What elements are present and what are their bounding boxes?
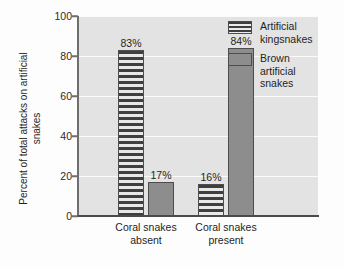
legend-label: Brown artificial snakes	[260, 52, 296, 90]
y-axis-line	[77, 16, 79, 217]
y-axis-tick-mark	[72, 215, 78, 217]
y-axis-tick-label: 20	[38, 170, 72, 182]
y-axis-tick-label: 100	[38, 10, 72, 22]
bar: 16%	[198, 184, 224, 216]
y-axis-tick-mark	[72, 95, 78, 97]
gridline	[78, 136, 318, 137]
chart-figure: 83%17%16%84% Percent of total attacks on…	[0, 0, 344, 269]
y-axis-tick-mark	[72, 175, 78, 177]
gridline	[78, 176, 318, 177]
bar-value-label: 83%	[120, 37, 141, 49]
y-axis-tick-label: 0	[38, 210, 72, 222]
bar-value-label: 17%	[150, 169, 171, 181]
solid-swatch-icon	[228, 53, 252, 66]
legend-item-artificial-kingsnakes: Artificial kingsnakes	[228, 20, 313, 45]
legend-item-brown-artificial-snakes: Brown artificial snakes	[228, 52, 313, 90]
bar-value-label: 16%	[200, 171, 221, 183]
chart-legend: Artificial kingsnakes Brown artificial s…	[228, 20, 313, 97]
gridline	[78, 16, 318, 17]
y-axis-tick-label: 60	[38, 90, 72, 102]
x-axis-category-label: Coral snakes present	[166, 221, 286, 246]
y-axis-tick-label: 40	[38, 130, 72, 142]
y-axis-tick-mark	[72, 55, 78, 57]
y-axis-tick-mark	[72, 15, 78, 17]
bar: 83%	[118, 50, 144, 216]
y-axis-tick-label: 80	[38, 50, 72, 62]
legend-label: Artificial kingsnakes	[260, 20, 313, 45]
striped-swatch-icon	[228, 21, 252, 34]
y-axis-tick-mark	[72, 135, 78, 137]
bar: 17%	[148, 182, 174, 216]
x-axis-line	[77, 215, 319, 217]
y-axis-title: Percent of total attacks on artificial s…	[18, 44, 43, 214]
